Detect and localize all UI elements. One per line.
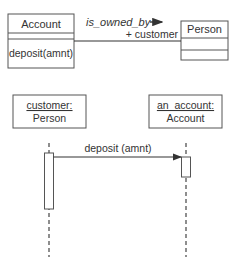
- class-person-name: Person: [187, 23, 222, 35]
- activation-bar-customer: [45, 153, 54, 209]
- class-person[interactable]: Person: [181, 21, 228, 60]
- object-customer-type: Person: [33, 112, 66, 124]
- object-customer[interactable]: customer: Person: [13, 95, 86, 128]
- object-an-account-name: an_account:: [157, 99, 214, 111]
- object-an-account[interactable]: an_account: Account: [149, 95, 222, 128]
- association-name: is_owned_by: [86, 16, 152, 28]
- association-role: + customer: [126, 28, 179, 40]
- object-an-account-type: Account: [167, 112, 205, 124]
- message-deposit[interactable]: deposit (amnt): [54, 142, 182, 157]
- class-account-operation: deposit(amnt): [9, 47, 73, 59]
- uml-diagram-canvas: Account deposit(amnt) Person is_owned_by…: [0, 0, 238, 273]
- association-is-owned-by[interactable]: is_owned_by + customer: [74, 16, 181, 41]
- class-account[interactable]: Account deposit(amnt): [8, 14, 74, 68]
- class-account-name: Account: [21, 18, 61, 30]
- object-customer-name: customer:: [26, 99, 72, 111]
- message-label: deposit (amnt): [84, 142, 151, 154]
- activation-bar-an-account: [182, 157, 191, 177]
